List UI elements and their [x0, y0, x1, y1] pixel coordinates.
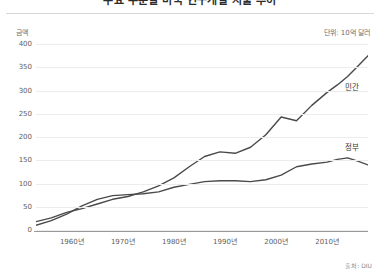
x-tick-label: 1960년	[60, 236, 84, 246]
chart-title: 주요 부문별 미국 연구개발 지출 추이	[0, 0, 380, 7]
gridline	[36, 160, 368, 161]
y-tick-label: 400	[2, 40, 32, 48]
line-series-government	[36, 158, 368, 225]
line-series-private	[36, 56, 368, 222]
series-label-private: 민간	[345, 81, 359, 92]
x-axis-line	[34, 231, 368, 232]
gridline	[36, 67, 368, 68]
y-axis-title: 금액	[16, 27, 28, 37]
y-tick-label: 200	[2, 133, 32, 141]
unit-note: 단위: 10억 달러	[324, 27, 370, 37]
x-tick-label: 2010년	[315, 236, 339, 246]
y-tick-label: 0	[2, 226, 32, 234]
plot-area	[36, 44, 368, 230]
x-tick-label: 1970년	[111, 236, 135, 246]
gridline	[36, 114, 368, 115]
series-label-government: 정부	[345, 141, 359, 152]
source-note: 출처: DIU	[345, 261, 372, 270]
x-tick-label: 2000년	[264, 236, 288, 246]
y-tick-label: 150	[2, 156, 32, 164]
y-tick-label: 50	[2, 203, 32, 211]
x-tick-label: 1980년	[162, 236, 186, 246]
y-tick-label: 300	[2, 87, 32, 95]
y-tick-label: 250	[2, 110, 32, 118]
gridline	[36, 207, 368, 208]
title-divider	[6, 13, 374, 14]
gridline	[36, 137, 368, 138]
chart-figure: 주요 부문별 미국 연구개발 지출 추이 금액 단위: 10억 달러 05010…	[0, 0, 380, 272]
x-tick-label: 1990년	[213, 236, 237, 246]
y-tick-label: 350	[2, 63, 32, 71]
y-tick-label: 100	[2, 180, 32, 188]
gridline	[36, 91, 368, 92]
gridline	[36, 44, 368, 45]
gridline	[36, 184, 368, 185]
